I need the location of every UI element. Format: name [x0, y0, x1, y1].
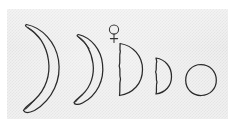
half-disk-outline: [119, 44, 142, 96]
crescent-outline: [74, 35, 103, 105]
phase-thin-crescent: [24, 25, 60, 113]
thin-crescent-outline: [24, 25, 60, 113]
figure-root: Phases of Venus ♀ thin crescent crescent…: [0, 0, 239, 135]
phase-drawing-layer: [0, 0, 239, 135]
venus-symbol: [109, 25, 118, 43]
phase-crescent: [74, 35, 103, 105]
venus-circle: [109, 25, 118, 34]
phase-full-disk: [186, 65, 217, 96]
phase-small-half-disk: [156, 58, 172, 94]
small-half-disk-outline: [156, 58, 172, 94]
full-disk-outline: [186, 65, 217, 96]
phase-half-disk: [119, 44, 142, 96]
